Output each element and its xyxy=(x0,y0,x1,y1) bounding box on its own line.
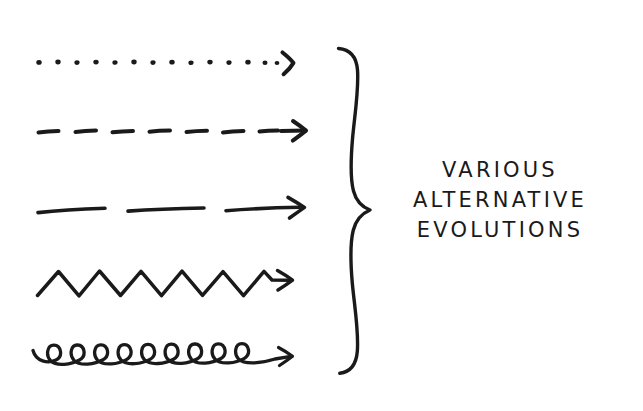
caption-line-1: VARIOUS xyxy=(393,155,607,185)
dashed-arrow xyxy=(39,121,307,141)
long-dash-arrow-dashes xyxy=(38,207,300,212)
curly-brace-path xyxy=(339,49,371,374)
coil-arrow-path xyxy=(33,344,291,365)
zigzag-arrow xyxy=(38,271,293,296)
caption-line-3: EVOLUTIONS xyxy=(393,215,607,245)
curly-brace xyxy=(339,49,371,374)
dotted-arrow xyxy=(36,53,293,75)
caption-line-2: ALTERNATIVE xyxy=(393,185,607,215)
zigzag-arrow-path xyxy=(38,271,292,296)
dotted-arrow-dots xyxy=(36,60,279,66)
diagram-canvas: VARIOUS ALTERNATIVE EVOLUTIONS xyxy=(0,0,643,411)
dotted-arrow-chevron-head xyxy=(283,53,294,75)
long-dash-arrow xyxy=(38,197,305,218)
coil-arrow xyxy=(33,344,293,366)
caption-block: VARIOUS ALTERNATIVE EVOLUTIONS xyxy=(393,155,607,245)
dashed-arrow-dashes xyxy=(39,130,279,132)
